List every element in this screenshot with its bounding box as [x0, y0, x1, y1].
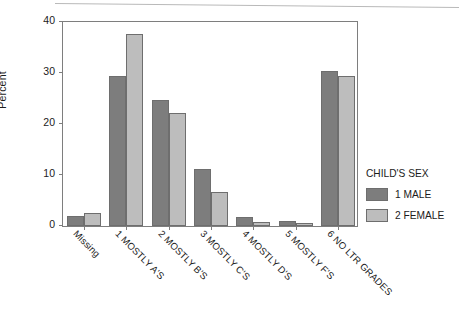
bar-female	[126, 34, 143, 226]
legend-item-female[interactable]: 2 FEMALE	[366, 209, 462, 222]
bar-group	[194, 22, 228, 226]
bar-male	[152, 100, 169, 226]
bar-male	[236, 217, 253, 226]
x-axis-label: Missing	[71, 228, 102, 259]
y-tick-label: 20	[29, 116, 55, 128]
legend-label-female: 2 FEMALE	[395, 210, 444, 221]
legend-title: CHILD'S SEX	[366, 168, 462, 179]
x-axis-label: 6 NO LTR GRADES	[325, 228, 394, 297]
bar-male	[194, 169, 211, 226]
bar-male	[67, 216, 84, 226]
bar-group	[321, 22, 355, 226]
bar-female	[169, 113, 186, 226]
x-axis-category-labels: Missing1 MOSTLY A'S2 MOSTLY B'S3 MOSTLY …	[62, 228, 462, 332]
legend-label-male: 1 MALE	[395, 189, 431, 200]
legend-swatch-female-icon	[366, 209, 388, 222]
y-tick-label: 30	[29, 65, 55, 77]
y-tick-label: 0	[29, 218, 55, 230]
bar-male	[109, 76, 126, 226]
y-tick-label: 40	[29, 14, 55, 26]
bar-female	[338, 76, 355, 226]
bar-male	[321, 71, 338, 226]
y-axis-title: Percent	[0, 30, 8, 150]
bar-female	[253, 222, 270, 226]
plot-area: 0 10 20 30 40	[62, 21, 358, 227]
bars-layer	[63, 22, 357, 226]
bar-group	[236, 22, 270, 226]
bar-group	[109, 22, 143, 226]
legend-item-male[interactable]: 1 MALE	[366, 188, 462, 201]
bar-female	[84, 213, 101, 226]
bar-group	[152, 22, 186, 226]
bar-group	[279, 22, 313, 226]
bar-female	[211, 192, 228, 226]
bar-group	[67, 22, 101, 226]
bar-female	[296, 223, 313, 226]
bar-chart-figure: 0 10 20 30 40 Percent Missing1 MOSTLY A'…	[0, 0, 462, 332]
scan-artifact-line	[55, 3, 459, 8]
bar-male	[279, 221, 296, 226]
legend-swatch-male-icon	[366, 188, 388, 201]
legend: CHILD'S SEX 1 MALE 2 FEMALE	[366, 168, 462, 230]
y-tick-label: 10	[29, 167, 55, 179]
